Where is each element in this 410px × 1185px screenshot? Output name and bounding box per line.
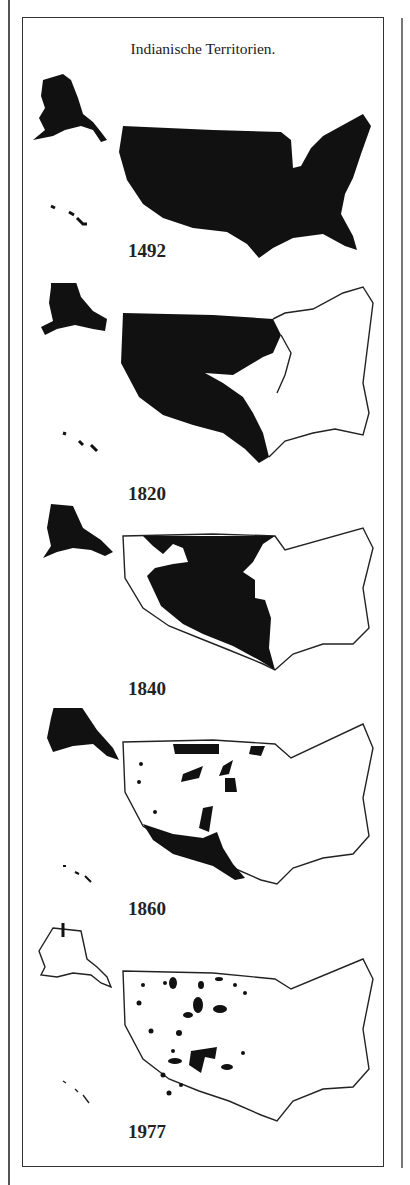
- outer-rule-right: [401, 18, 403, 1168]
- map-1840: [23, 488, 385, 703]
- year-label-1977: 1977: [128, 1121, 166, 1143]
- year-label-1840: 1840: [128, 678, 166, 700]
- map-panel-1860: 1860: [23, 708, 383, 923]
- map-panel-1820: 1820: [23, 283, 383, 503]
- map-1977: [23, 923, 385, 1163]
- map-panel-1840: 1840: [23, 488, 383, 703]
- map-frame: Indianische Territorien. 1492 1820 1840: [22, 17, 384, 1167]
- map-1820: [23, 283, 385, 503]
- map-1860: [23, 708, 385, 923]
- map-panel-1492: 1492: [23, 18, 383, 278]
- year-label-1492: 1492: [128, 240, 166, 262]
- map-1492: [23, 18, 385, 278]
- year-label-1860: 1860: [128, 898, 166, 920]
- outer-rule-left: [8, 0, 10, 1185]
- map-panel-1977: 1977: [23, 923, 383, 1163]
